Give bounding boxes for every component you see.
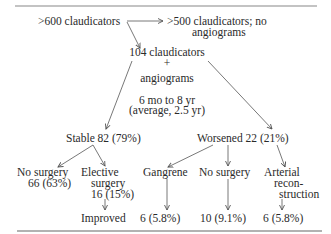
node-studied-line2: angiograms bbox=[117, 73, 217, 84]
node-stable-no-surgery-line2: 66 (63%) bbox=[28, 178, 71, 189]
flowchart: >600 claudicators >500 claudicators; no … bbox=[0, 0, 331, 234]
node-stable: Stable 82 (79%) bbox=[66, 133, 141, 144]
node-worsened: Worsened 22 (21%) bbox=[197, 133, 289, 144]
arrow-to-gangrene bbox=[168, 145, 213, 167]
node-gangrene-outcome: 6 (5.8%) bbox=[140, 213, 180, 224]
node-elective-line3: 16 (15%) bbox=[91, 189, 134, 200]
arrow-to-stable-no-surgery bbox=[58, 145, 93, 167]
arrow-to-arterial bbox=[277, 145, 285, 167]
node-worsened-no-surgery: No surgery bbox=[199, 167, 250, 178]
node-arterial-outcome: 6 (5.8%) bbox=[263, 213, 303, 224]
node-gangrene: Gangrene bbox=[143, 167, 188, 178]
node-worsened-no-surgery-outcome: 10 (9.1%) bbox=[200, 213, 246, 224]
node-elective-outcome: Improved bbox=[81, 213, 126, 224]
node-studied-plus: + bbox=[117, 58, 217, 69]
node-arterial-line3: struction bbox=[279, 189, 319, 200]
followup-line2: (average, 2.5 yr) bbox=[117, 105, 217, 116]
arrow-to-worsened bbox=[208, 61, 272, 129]
arrow-to-elective bbox=[93, 145, 105, 166]
node-excluded-line2: angiograms bbox=[192, 27, 246, 38]
node-total: >600 claudicators bbox=[38, 16, 120, 27]
arrow-to-studied bbox=[127, 22, 140, 48]
